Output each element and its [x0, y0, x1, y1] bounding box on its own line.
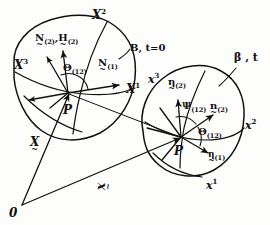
current-body-meridians: [145, 71, 244, 177]
point-P-current: P: [174, 145, 183, 157]
axis-label-x2: x2: [245, 118, 256, 131]
eta-two-label: η~(2): [168, 77, 186, 90]
axis-label-X2: X2: [92, 8, 106, 21]
normal-pair-label: N~(2),H~(2): [35, 33, 78, 46]
axis-label-x1: x1: [206, 178, 217, 191]
origin-label: 0: [9, 207, 17, 219]
axis-label-X1: X1: [126, 82, 140, 95]
config-label-current: β , t: [234, 52, 258, 63]
reference-angle-label: Θ(12): [63, 63, 87, 76]
position-vector-current-label: x~: [95, 183, 107, 190]
n-two-label: n~(2): [210, 101, 228, 114]
normal-one-label: N~(1): [98, 58, 118, 71]
psi-angle-label: Ψ(12): [182, 101, 206, 114]
point-P-reference: P: [63, 104, 72, 116]
position-vector-reference-label: X~: [30, 136, 39, 148]
figure-canvas: X2 X3 X1 N~(2),H~(2) N~(1) Θ(12) P B, t=…: [0, 0, 270, 225]
axis-label-x3: x3: [148, 72, 159, 85]
current-angle-label: Θ(12): [198, 127, 222, 140]
eta-one-label: η~(1): [208, 150, 225, 161]
axis-label-X3: X3: [14, 58, 28, 71]
config-label-reference: B, t=0: [130, 43, 165, 53]
